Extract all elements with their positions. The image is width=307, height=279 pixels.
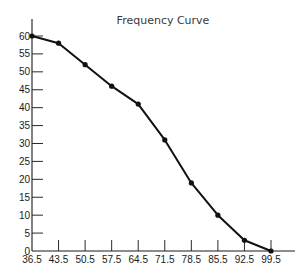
- x-axis-ticks: 36.543.550.557.564.571.578.585.592.599.5: [22, 240, 281, 265]
- series-group: [29, 33, 273, 253]
- data-point: [162, 137, 167, 142]
- x-tick-label: 36.5: [22, 254, 42, 265]
- x-tick-label: 64.5: [128, 254, 148, 265]
- chart-title: Frequency Curve: [117, 14, 210, 27]
- y-tick-label: 10: [19, 210, 31, 221]
- y-tick-label: 50: [19, 66, 31, 77]
- x-tick-label: 92.5: [235, 254, 255, 265]
- data-point: [83, 62, 88, 67]
- chart-container: Frequency Curve 051015202530354045505560…: [0, 0, 307, 279]
- y-tick-label: 55: [19, 48, 31, 59]
- x-tick-label: 85.5: [208, 254, 228, 265]
- y-tick-label: 30: [19, 138, 31, 149]
- data-point: [56, 41, 61, 46]
- y-tick-label: 60: [19, 31, 31, 42]
- data-point: [215, 213, 220, 218]
- y-tick-label: 35: [19, 120, 31, 131]
- y-tick-label: 25: [19, 156, 31, 167]
- data-point: [268, 248, 273, 253]
- x-tick-label: 78.5: [182, 254, 202, 265]
- data-point: [242, 238, 247, 243]
- y-tick-label: 45: [19, 84, 31, 95]
- data-point: [136, 101, 141, 106]
- y-tick-label: 40: [19, 102, 31, 113]
- data-point: [29, 33, 34, 38]
- data-point: [109, 84, 114, 89]
- frequency-curve-chart: Frequency Curve 051015202530354045505560…: [0, 0, 307, 279]
- y-tick-label: 15: [19, 192, 31, 203]
- y-tick-label: 5: [24, 228, 30, 239]
- x-tick-label: 71.5: [155, 254, 175, 265]
- x-tick-label: 43.5: [49, 254, 69, 265]
- y-axis-ticks: 051015202530354045505560: [19, 31, 43, 257]
- series-line: [32, 36, 271, 251]
- data-point: [189, 180, 194, 185]
- x-tick-label: 57.5: [102, 254, 122, 265]
- y-tick-label: 20: [19, 174, 31, 185]
- x-tick-label: 50.5: [75, 254, 95, 265]
- x-tick-label: 99.5: [261, 254, 281, 265]
